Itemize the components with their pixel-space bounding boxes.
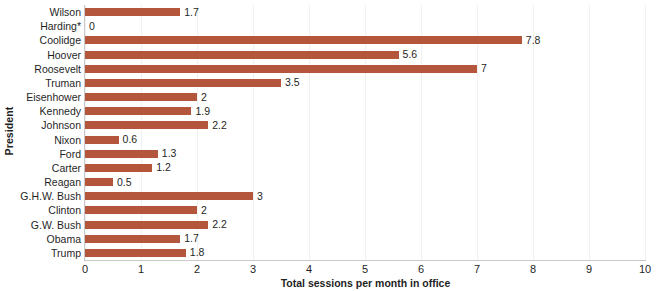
bar-value-label: 2.2	[212, 118, 227, 132]
bar-value-label: 2.2	[212, 217, 227, 231]
bar-value-label: 3.5	[285, 75, 300, 89]
bar[interactable]	[85, 178, 113, 186]
bar-row[interactable]: 3	[85, 189, 645, 203]
category-label: Trump	[0, 246, 85, 260]
bar-value-label: 2	[201, 203, 207, 217]
x-tick-label: 8	[513, 263, 553, 275]
category-label: G.H.W. Bush	[0, 189, 85, 203]
bar-chart: President WilsonHarding*CoolidgeHooverRo…	[0, 0, 658, 291]
category-label: Kennedy	[0, 104, 85, 118]
bar-value-label: 7.8	[526, 33, 541, 47]
category-label: G.W. Bush	[0, 218, 85, 232]
bar[interactable]	[85, 8, 180, 16]
bar[interactable]	[85, 164, 152, 172]
bar[interactable]	[85, 107, 191, 115]
category-label: Eisenhower	[0, 90, 85, 104]
bar-rows: 1.707.85.673.521.92.20.61.31.20.5322.21.…	[85, 5, 645, 260]
bar[interactable]	[85, 121, 208, 129]
bar-row[interactable]: 1.7	[85, 232, 645, 246]
plot-area: WilsonHarding*CoolidgeHooverRooseveltTru…	[85, 5, 645, 260]
bar[interactable]	[85, 79, 281, 87]
bar-row[interactable]: 5.6	[85, 48, 645, 62]
bar-row[interactable]: 2	[85, 203, 645, 217]
bar-value-label: 1.9	[195, 104, 210, 118]
bar-row[interactable]: 1.3	[85, 147, 645, 161]
bar-row[interactable]: 1.9	[85, 104, 645, 118]
category-label: Johnson	[0, 118, 85, 132]
bar-row[interactable]: 2	[85, 90, 645, 104]
category-label: Nixon	[0, 133, 85, 147]
bar-value-label: 0.6	[123, 132, 138, 146]
bar-row[interactable]: 1.8	[85, 246, 645, 260]
category-label: Reagan	[0, 175, 85, 189]
x-tick-label: 9	[569, 263, 609, 275]
bar-value-label: 1.2	[156, 160, 171, 174]
x-tick-label: 5	[345, 263, 385, 275]
category-label: Clinton	[0, 203, 85, 217]
bar[interactable]	[85, 136, 119, 144]
bar-value-label: 1.7	[184, 231, 199, 245]
bar-value-label: 2	[201, 90, 207, 104]
bar[interactable]	[85, 150, 158, 158]
bar[interactable]	[85, 51, 399, 59]
bar-value-label: 5.6	[403, 47, 418, 61]
bar-value-label: 1.3	[162, 146, 177, 160]
bar-value-label: 1.7	[184, 5, 199, 19]
bar-row[interactable]: 0.6	[85, 133, 645, 147]
bar-value-label: 3	[257, 189, 263, 203]
category-axis-labels: WilsonHarding*CoolidgeHooverRooseveltTru…	[0, 5, 81, 260]
bar-row[interactable]: 3.5	[85, 76, 645, 90]
category-label: Carter	[0, 161, 85, 175]
category-label: Hoover	[0, 48, 85, 62]
x-tick-label: 7	[457, 263, 497, 275]
bar-row[interactable]: 1.7	[85, 5, 645, 19]
x-axis-title: Total sessions per month in office	[85, 277, 646, 289]
bar[interactable]	[85, 206, 197, 214]
bar[interactable]	[85, 192, 253, 200]
bar-row[interactable]: 7.8	[85, 33, 645, 47]
bar-value-label: 0.5	[117, 175, 132, 189]
bar[interactable]	[85, 235, 180, 243]
x-tick-label: 3	[233, 263, 273, 275]
gridline	[645, 5, 646, 260]
x-tick-label: 6	[401, 263, 441, 275]
bar-value-label: 1.8	[190, 245, 205, 259]
category-label: Obama	[0, 232, 85, 246]
x-tick-label: 0	[65, 263, 105, 275]
x-tick-label: 2	[177, 263, 217, 275]
bar[interactable]	[85, 93, 197, 101]
bar-row[interactable]: 2.2	[85, 218, 645, 232]
x-axis-line	[85, 260, 646, 261]
x-tick-label: 10	[625, 263, 658, 275]
bar[interactable]	[85, 221, 208, 229]
bar[interactable]	[85, 249, 186, 257]
category-label: Truman	[0, 76, 85, 90]
bar-row[interactable]: 1.2	[85, 161, 645, 175]
x-tick-label: 4	[289, 263, 329, 275]
bar-value-label: 0	[89, 19, 95, 33]
bar[interactable]	[85, 65, 477, 73]
category-label: Coolidge	[0, 33, 85, 47]
category-label: Harding*	[0, 19, 85, 33]
bar-row[interactable]: 7	[85, 62, 645, 76]
category-label: Roosevelt	[0, 62, 85, 76]
bar-row[interactable]: 0.5	[85, 175, 645, 189]
x-tick-label: 1	[121, 263, 161, 275]
bar-row[interactable]: 2.2	[85, 118, 645, 132]
bar-row[interactable]: 0	[85, 19, 645, 33]
bar[interactable]	[85, 36, 522, 44]
bar-value-label: 7	[481, 61, 487, 75]
category-label: Ford	[0, 147, 85, 161]
category-label: Wilson	[0, 5, 85, 19]
